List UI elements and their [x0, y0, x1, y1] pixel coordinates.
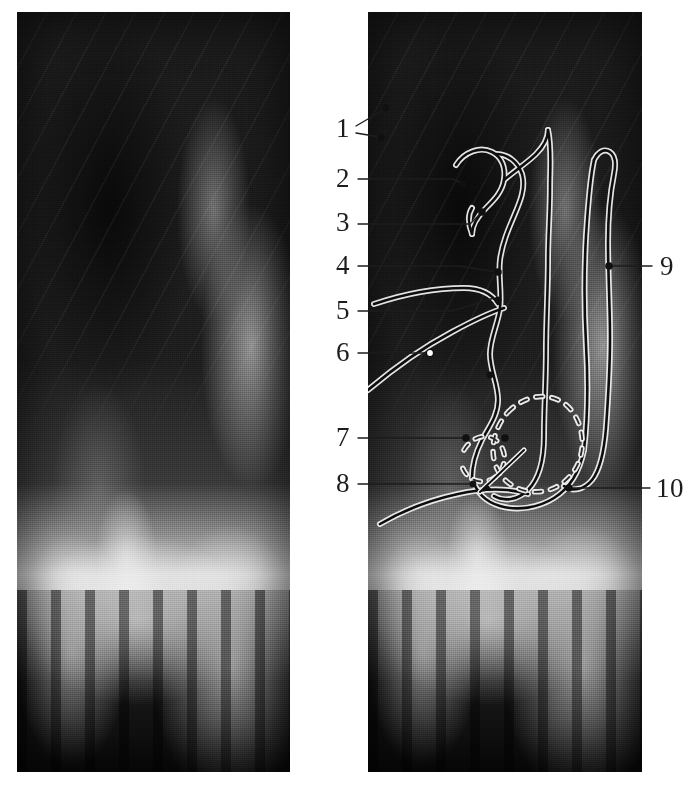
radiograph-panel-left — [17, 12, 290, 772]
annotation-number-5[interactable]: 5 — [330, 297, 350, 324]
figure-root: 1 2 3 4 5 6 7 8 9 10 — [0, 0, 688, 797]
annotation-number-4[interactable]: 4 — [330, 252, 350, 279]
annotation-number-1[interactable]: 1 — [330, 115, 350, 142]
annotation-number-10[interactable]: 10 — [656, 475, 684, 502]
soft-palate-halo — [456, 150, 505, 234]
radiograph-image-plain — [17, 12, 290, 772]
annotation-number-9[interactable]: 9 — [660, 253, 674, 280]
mandible-body-outline — [368, 308, 504, 390]
annotation-number-3[interactable]: 3 — [330, 209, 350, 236]
tracing-svg — [368, 12, 642, 772]
mandible-body-halo — [368, 308, 504, 390]
annotation-number-2[interactable]: 2 — [330, 165, 350, 192]
radiograph-panel-right — [368, 12, 642, 772]
annotation-number-8[interactable]: 8 — [330, 470, 350, 497]
anatomic-tracing-overlay — [368, 12, 642, 772]
annotation-number-7[interactable]: 7 — [330, 424, 350, 451]
annotation-number-6[interactable]: 6 — [330, 339, 350, 366]
film-vignette-layer — [17, 12, 290, 772]
